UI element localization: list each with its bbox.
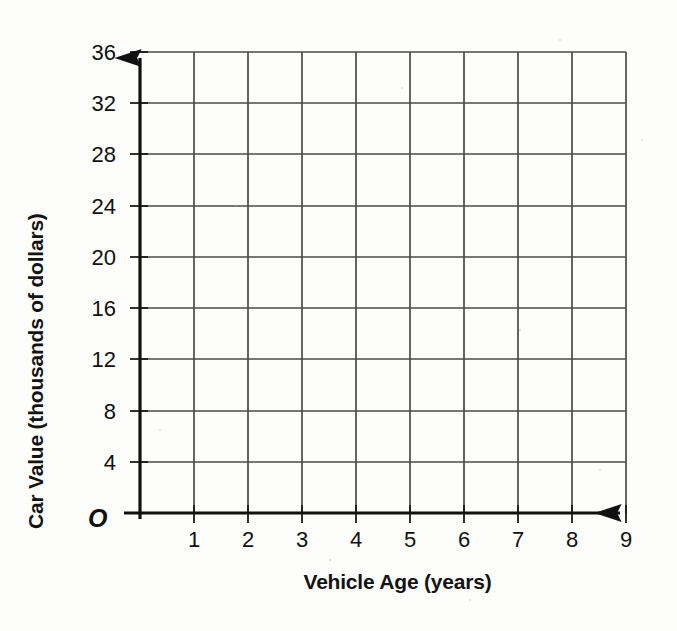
x-tick-label: 4: [336, 527, 376, 553]
y-tick-label: 4: [62, 450, 116, 476]
y-tick-label: 36: [62, 40, 116, 66]
x-tick-label: 7: [498, 527, 538, 553]
x-tick-label: 6: [444, 527, 484, 553]
y-tick-label: 12: [62, 347, 116, 373]
y-axis-title: Car Value (thousands of dollars): [24, 213, 48, 529]
x-tick-label: 8: [552, 527, 592, 553]
y-tick-label: 16: [62, 296, 116, 322]
grid-horizontal-lines: [140, 52, 626, 462]
x-tick-label: 2: [228, 527, 268, 553]
y-tick-label: 24: [62, 194, 116, 220]
origin-label: O: [88, 504, 107, 533]
x-tick-label: 1: [174, 527, 214, 553]
x-tick-label: 3: [282, 527, 322, 553]
y-tick-label: 28: [62, 142, 116, 168]
x-tick-label: 5: [390, 527, 430, 553]
y-tick-label: 20: [62, 245, 116, 271]
x-axis-title: Vehicle Age (years): [0, 570, 677, 594]
y-tick-label: 32: [62, 91, 116, 117]
x-tick-label: 9: [606, 527, 646, 553]
grid-vertical-lines: [194, 52, 626, 513]
chart-container: 36 32 28 24 20 16 12 8 4 1 2 3 4 5 6 7 8…: [0, 0, 677, 631]
y-tick-label: 8: [62, 399, 116, 425]
